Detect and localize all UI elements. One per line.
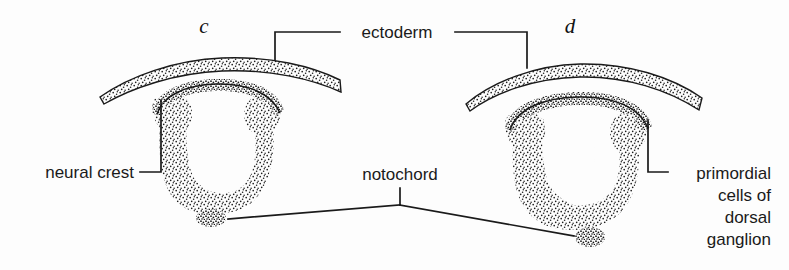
panel-d-group: d [466,14,702,247]
ectoderm-leader-right [455,32,527,68]
panel-c-group: c [100,14,341,227]
primordial-cells-label-line1: primordial [696,164,771,183]
panel-c-letter: c [199,14,209,38]
primordial-cells-leader [648,120,668,172]
notochord-spot-d [575,227,605,247]
ectoderm-label: ectoderm [362,23,433,42]
primordial-cells-label-line3: dorsal [725,208,771,227]
notochord-leader-left [228,205,400,219]
ectoderm-leader-left [275,32,340,60]
notochord-label: notochord [362,165,438,184]
diagram-canvas: c d [0,0,789,270]
neural-crest-label: neural crest [45,163,134,182]
neural-lumen-d [560,112,595,205]
notochord-spot-c [196,209,226,227]
primordial-cells-label-line4: ganglion [707,230,771,249]
embryology-figure: c d [0,0,789,270]
primordial-cells-label-line2: cells of [718,186,771,205]
panel-d-letter: d [565,14,576,38]
neural-lumen-c [201,101,232,187]
